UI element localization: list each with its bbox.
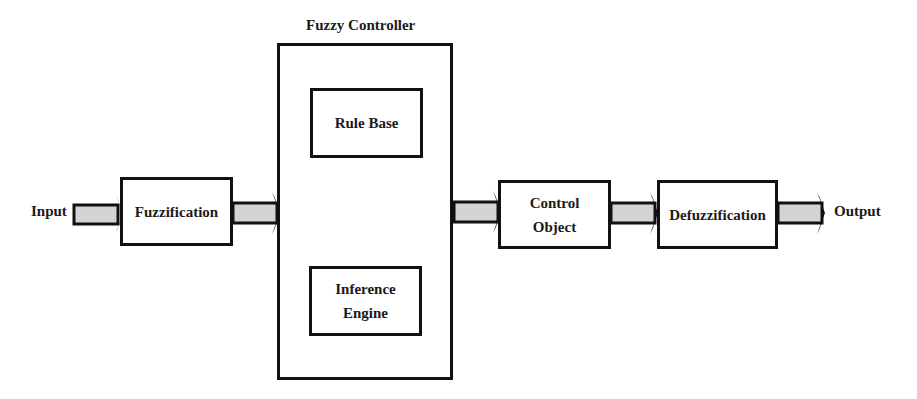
inference-engine-line2: Engine <box>343 301 388 325</box>
fuzzy-controller-title: Fuzzy Controller <box>306 17 415 34</box>
output-label: Output <box>834 203 881 220</box>
inference-engine-line1: Inference <box>335 277 396 301</box>
rule-base-node: Rule Base <box>310 88 423 158</box>
arrow-input-to-fuzzification <box>74 196 124 232</box>
control-object-line2: Object <box>533 215 576 239</box>
defuzzification-node: Defuzzification <box>657 180 778 249</box>
arrow-control-object-to-defuzzification <box>611 192 658 234</box>
rule-base-label: Rule Base <box>335 111 399 135</box>
fuzzification-label: Fuzzification <box>135 200 218 224</box>
fuzzification-node: Fuzzification <box>120 177 233 246</box>
control-object-line1: Control <box>530 191 580 215</box>
defuzzification-label: Defuzzification <box>669 203 766 227</box>
arrow-fuzzification-to-controller <box>233 192 280 234</box>
arrow-defuzzification-to-output <box>778 192 825 234</box>
input-label: Input <box>31 203 67 220</box>
control-object-node: Control Object <box>498 180 611 249</box>
inference-engine-node: Inference Engine <box>309 266 422 336</box>
arrow-controller-to-control-object <box>454 191 501 233</box>
